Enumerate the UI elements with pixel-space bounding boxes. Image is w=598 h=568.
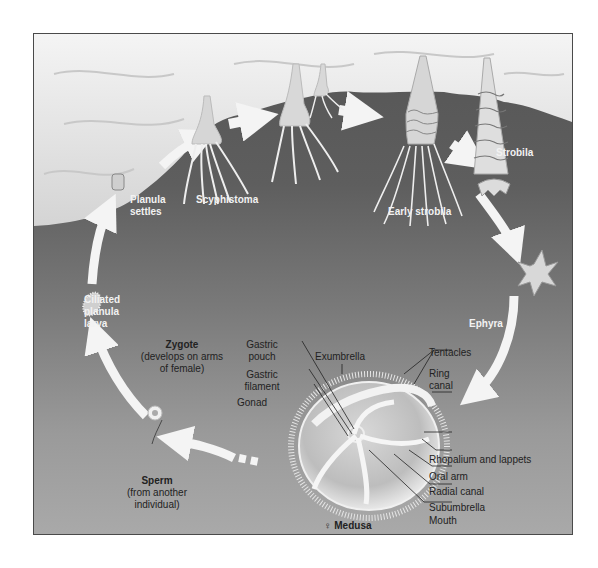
planula-settles-figure — [112, 174, 124, 190]
label-scyphistoma: Scyphistoma — [196, 194, 258, 206]
label-early-strobila: Early strobila — [388, 206, 451, 218]
label-gastric-pouch: Gastric pouch — [237, 339, 287, 363]
label-radial-canal: Radial canal — [429, 486, 484, 498]
medusa-figure — [291, 374, 447, 518]
label-oral-arm: Oral arm — [429, 471, 468, 483]
label-ring-canal: Ring canal — [429, 368, 453, 392]
diagram-frame: Planula settles Scyphistoma Early strobi… — [33, 33, 573, 535]
label-planula-settles: Planula settles — [130, 194, 166, 218]
label-medusa: ♀ Medusa — [324, 520, 372, 532]
female-symbol-icon: ♀ — [324, 520, 332, 531]
label-ephyra: Ephyra — [469, 318, 503, 330]
label-exumbrella: Exumbrella — [315, 351, 365, 363]
zygote-figure — [148, 406, 162, 444]
label-zygote: Zygote (develops on arms of female) — [127, 339, 237, 375]
label-gastric-filament: Gastric filament — [237, 369, 287, 393]
label-gonad: Gonad — [237, 397, 267, 409]
label-tentacles: Tentacles — [429, 347, 471, 359]
ephyra-figure — [518, 250, 558, 296]
label-subumbrella: Subumbrella — [429, 502, 485, 514]
label-mouth: Mouth — [429, 515, 457, 527]
label-ciliated-planula: Ciliated planula larva — [84, 294, 120, 330]
label-rhopalium: Rhopalium and lappets — [429, 454, 531, 466]
label-sperm: Sperm (from another individual) — [112, 475, 202, 511]
label-strobila: Strobila — [496, 147, 533, 159]
